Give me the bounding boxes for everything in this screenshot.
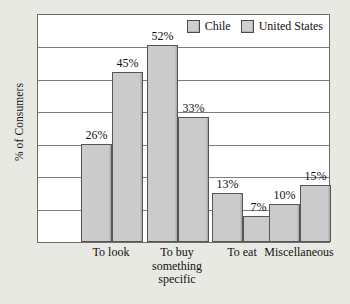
bar-value-label: 15% [305,169,327,184]
bar-value-label: 7% [251,200,267,215]
bar-slot: 26% [81,15,112,242]
category-label-line: Miscellaneous [264,246,333,260]
legend-item-united-states: United States [241,19,323,34]
y-axis-title: % of Consumers [8,0,30,243]
bar[interactable] [147,45,178,242]
legend-label: Chile [205,19,231,34]
legend-item-chile: Chile [187,19,231,34]
plot-area: Chile United States 26%45%52%33%13%7%10%… [37,14,330,243]
bar[interactable] [178,117,209,242]
bar-group: 52%33% [147,15,209,242]
x-axis-category-label: To eat [227,246,256,260]
bar-slot: 13% [212,15,243,242]
x-axis-category-label: Miscellaneous [264,246,333,260]
bar[interactable] [300,185,331,242]
legend-label: United States [259,19,323,34]
legend: Chile United States [187,19,323,34]
bar-group: 10%15% [269,15,331,242]
bar[interactable] [212,193,243,242]
bar-slot: 52% [147,15,178,242]
bar[interactable] [81,144,112,242]
bar-slot: 45% [112,15,143,242]
category-label-line: To eat [227,246,256,260]
bar-value-label: 10% [274,188,296,203]
category-label-line: specific [152,273,202,287]
x-axis-category-label: To buysomethingspecific [152,246,202,287]
bar-value-label: 33% [183,101,205,116]
bar-value-label: 52% [152,29,174,44]
category-label-line: something [152,260,202,274]
chart-root: % of Consumers Chile United States 26%45… [0,0,350,304]
y-axis-title-text: % of Consumers [13,82,25,160]
bar[interactable] [269,204,300,242]
bar-group: 13%7% [212,15,274,242]
bar-slot: 10% [269,15,300,242]
category-label-line: To look [93,246,130,260]
bar-value-label: 26% [86,128,108,143]
category-label-line: To buy [152,246,202,260]
bar-group: 26%45% [81,15,143,242]
legend-swatch-icon [241,20,254,33]
bar-slot: 33% [178,15,209,242]
bar[interactable] [112,72,143,242]
bar-value-label: 13% [217,177,239,192]
x-axis-category-label: To look [93,246,130,260]
bar-slot: 15% [300,15,331,242]
bar-container: 26%45%52%33%13%7%10%15% [38,15,329,242]
bar-value-label: 45% [117,56,139,71]
legend-swatch-icon [187,20,200,33]
